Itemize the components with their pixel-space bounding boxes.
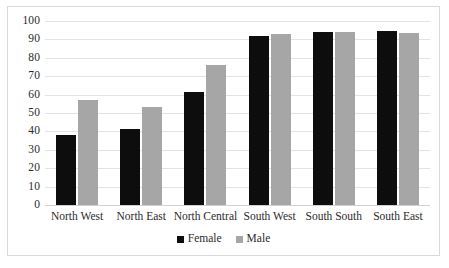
x-axis-tick-label: North Central — [173, 207, 237, 225]
y-axis-tick-label: 80 — [28, 52, 40, 64]
bar-male[interactable] — [78, 100, 98, 205]
y-axis-tick-label: 50 — [28, 107, 40, 119]
legend-swatch-icon — [236, 236, 243, 243]
y-axis-tick-label: 100 — [22, 15, 40, 27]
y-axis-tick-label: 20 — [28, 162, 40, 174]
bar-female[interactable] — [249, 36, 269, 205]
bar-male[interactable] — [206, 65, 226, 205]
x-axis-tick-label: South South — [302, 207, 366, 225]
y-axis-tick-label: 0 — [34, 199, 40, 211]
bar-female[interactable] — [313, 32, 333, 205]
axis-baseline — [45, 205, 430, 206]
legend-item-female[interactable]: Female — [177, 233, 222, 245]
y-axis-tick-label: 90 — [28, 34, 40, 46]
x-axis-tick-label: South East — [366, 207, 430, 225]
x-axis-tick-label: North East — [109, 207, 173, 225]
bar-group — [238, 21, 302, 205]
y-axis-tick-label: 40 — [28, 126, 40, 138]
bar-female[interactable] — [377, 31, 397, 205]
bar-female[interactable] — [120, 129, 140, 205]
y-axis-tick-label: 70 — [28, 70, 40, 82]
legend-label: Female — [188, 233, 222, 245]
bar-group — [302, 21, 366, 205]
y-axis: 1009080706050403020100 — [14, 21, 40, 205]
legend-label: Male — [247, 233, 271, 245]
bar-female[interactable] — [56, 135, 76, 205]
chart-legend: FemaleMale — [8, 231, 439, 247]
y-axis-tick-label: 30 — [28, 144, 40, 156]
bar-male[interactable] — [399, 33, 419, 205]
bar-male[interactable] — [271, 34, 291, 205]
legend-swatch-icon — [177, 236, 184, 243]
chart-frame: 1009080706050403020100 North WestNorth E… — [7, 6, 440, 256]
bar-male[interactable] — [335, 32, 355, 205]
bar-group — [173, 21, 237, 205]
y-axis-tick-label: 10 — [28, 181, 40, 193]
x-axis-tick-label: South West — [238, 207, 302, 225]
bar-series-container — [45, 21, 430, 205]
bar-group — [109, 21, 173, 205]
bar-group — [45, 21, 109, 205]
x-axis-tick-label: North West — [45, 207, 109, 225]
bar-female[interactable] — [184, 92, 204, 205]
x-axis: North WestNorth EastNorth CentralSouth W… — [45, 207, 430, 225]
legend-item-male[interactable]: Male — [236, 233, 271, 245]
bar-group — [366, 21, 430, 205]
bar-male[interactable] — [142, 107, 162, 205]
y-axis-tick-label: 60 — [28, 89, 40, 101]
chart-plot-wrapper: 1009080706050403020100 North WestNorth E… — [8, 7, 439, 255]
plot-area — [45, 21, 430, 205]
